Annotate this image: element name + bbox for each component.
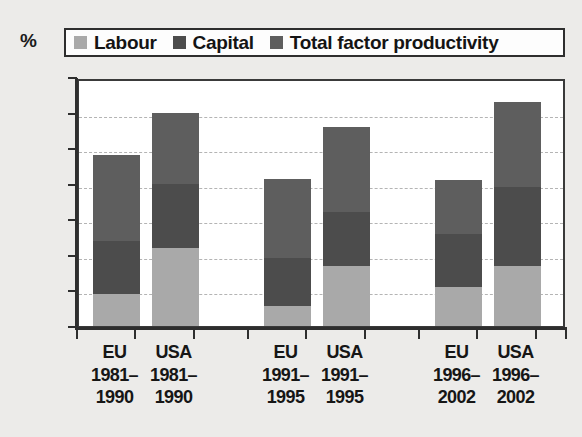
legend-label: Labour (94, 33, 157, 52)
bar-segment-labour[interactable] (494, 266, 541, 326)
x-axis-tick (76, 330, 78, 339)
bar-segment-labour[interactable] (435, 287, 482, 326)
category-region: USA (302, 341, 388, 364)
y-axis-tick (68, 184, 77, 186)
category-period-start: 1996– (473, 364, 559, 387)
category-region: USA (131, 341, 217, 364)
bar-segment-capital[interactable] (323, 212, 370, 265)
chart-title-cropped (0, 0, 582, 14)
legend-item-capital[interactable]: Capital (173, 33, 254, 52)
y-axis-tick (68, 219, 77, 221)
category-period-start: 1991– (302, 364, 388, 387)
legend-label: Total factor productivity (290, 33, 499, 52)
legend-swatch-icon (173, 36, 186, 49)
x-axis-tick (193, 330, 195, 339)
category-period-end: 2002 (473, 386, 559, 409)
bar-eu-1991-1995[interactable] (264, 179, 311, 326)
bar-segment-total-factor-productivity[interactable] (494, 102, 541, 187)
bar-segment-total-factor-productivity[interactable] (264, 179, 311, 259)
x-axis-tick (305, 330, 307, 339)
stacked-bar-chart: % LabourCapitalTotal factor productivity… (0, 0, 582, 437)
bar-segment-labour[interactable] (93, 294, 140, 326)
bar-eu-1981-1990[interactable] (93, 155, 140, 326)
category-period-end: 1995 (302, 386, 388, 409)
y-axis-tick (68, 255, 77, 257)
legend-item-total-factor-productivity[interactable]: Total factor productivity (270, 33, 499, 52)
bar-segment-labour[interactable] (264, 306, 311, 326)
bar-segment-total-factor-productivity[interactable] (93, 155, 140, 240)
legend-label: Capital (193, 33, 254, 52)
x-axis-tick (535, 330, 537, 339)
y-axis-tick (68, 113, 77, 115)
bar-usa-1991-1995[interactable] (323, 127, 370, 326)
x-axis-category-label: USA1981–1990 (131, 341, 217, 409)
bar-segment-total-factor-productivity[interactable] (152, 113, 199, 184)
x-axis-tick (565, 330, 567, 339)
y-axis-tick (68, 290, 77, 292)
bar-eu-1996-2002[interactable] (435, 180, 482, 326)
legend-item-labour[interactable]: Labour (74, 33, 157, 52)
bar-layer (79, 81, 563, 326)
category-period-start: 1981– (131, 364, 217, 387)
bar-segment-labour[interactable] (323, 266, 370, 326)
y-axis-tick (68, 326, 77, 328)
bar-segment-capital[interactable] (152, 184, 199, 248)
category-region: USA (473, 341, 559, 364)
bar-segment-total-factor-productivity[interactable] (323, 127, 370, 212)
x-axis-category-label: USA1991–1995 (302, 341, 388, 409)
y-axis-tick (68, 77, 77, 79)
x-axis-tick (418, 330, 420, 339)
bar-segment-total-factor-productivity[interactable] (435, 180, 482, 233)
bar-segment-capital[interactable] (264, 258, 311, 306)
bar-usa-1996-2002[interactable] (494, 102, 541, 326)
y-axis-unit-label: % (20, 30, 36, 52)
x-axis-tick (134, 330, 136, 339)
plot-area (77, 79, 565, 328)
x-axis-tick (476, 330, 478, 339)
bar-segment-capital[interactable] (494, 187, 541, 265)
bar-segment-labour[interactable] (152, 248, 199, 326)
bar-segment-capital[interactable] (435, 234, 482, 287)
bar-usa-1981-1990[interactable] (152, 113, 199, 326)
x-axis-line (75, 327, 567, 330)
chart-legend: LabourCapitalTotal factor productivity (64, 28, 565, 57)
category-period-end: 1990 (131, 386, 217, 409)
legend-swatch-icon (270, 36, 283, 49)
legend-swatch-icon (74, 36, 87, 49)
x-axis-tick (364, 330, 366, 339)
x-axis-tick (247, 330, 249, 339)
x-axis-category-label: USA1996–2002 (473, 341, 559, 409)
bar-segment-capital[interactable] (93, 241, 140, 294)
y-axis-tick (68, 148, 77, 150)
